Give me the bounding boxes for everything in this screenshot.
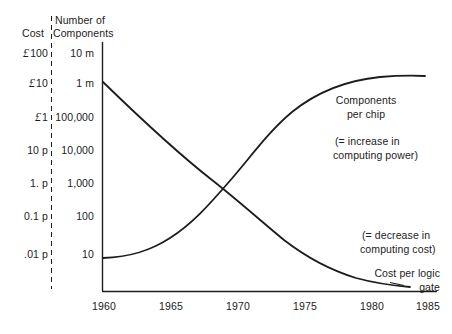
chart-figure: Cost Number of Components £100 £10 £1 10…	[0, 0, 452, 334]
xtick-1965: 1965	[151, 300, 191, 313]
xtick-1975: 1975	[285, 300, 325, 313]
annotation-decrease-cost-line2: computing cost)	[360, 242, 436, 256]
components-column-header-line1: Number of	[55, 14, 105, 27]
components-tick-100000: 100,000	[32, 111, 94, 124]
components-tick-10000: 10,000	[32, 144, 94, 157]
components-tick-1000: 1,000	[32, 177, 94, 190]
components-tick-10: 10	[32, 248, 94, 261]
xtick-1985: 1985	[408, 300, 448, 313]
annotation-decrease-cost-line1: (= decrease in	[362, 228, 430, 242]
xtick-1980: 1980	[352, 300, 392, 313]
annotation-increase-power-line1: (= increase in	[335, 134, 400, 148]
xtick-1970: 1970	[218, 300, 258, 313]
annotation-components-per-chip-line1: Components	[318, 93, 414, 107]
components-tick-10m: 10 m	[32, 47, 94, 60]
components-tick-100: 100	[32, 210, 94, 223]
xtick-1960: 1960	[84, 300, 124, 313]
components-tick-1m: 1 m	[32, 77, 94, 90]
annotation-cost-per-logic-gate-line2: gate	[330, 280, 440, 294]
annotation-cost-per-logic-gate-line1: Cost per logic	[330, 266, 440, 280]
annotation-components-per-chip-line2: per chip	[318, 107, 414, 121]
components-column-header-line2: Components	[53, 27, 114, 40]
cost-column-header: Cost	[22, 27, 44, 40]
annotation-increase-power-line2: computing power)	[333, 148, 418, 162]
